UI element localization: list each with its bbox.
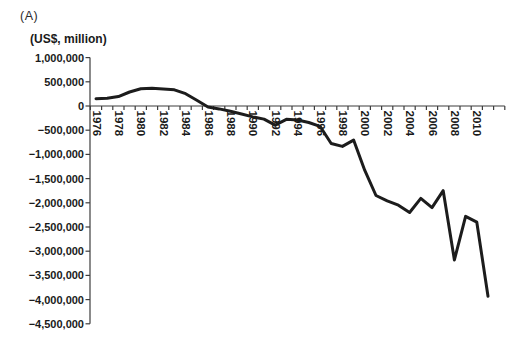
y-tick-label: 1,000,000 [35,52,84,64]
y-tick-label: −4,500,000 [29,318,84,330]
x-tick-label: 2006 [427,111,439,137]
y-tick-label: −500,000 [38,124,84,136]
x-tick-label: 1986 [203,111,215,137]
x-tick-label: 2002 [382,111,394,137]
y-tick-label: −3,000,000 [29,245,84,257]
y-tick-label: −2,000,000 [29,197,84,209]
y-tick-label: 500,000 [44,76,84,88]
figure-panel-a: (A) (US$, million) 1,000,000500,0000−500… [0,0,520,355]
y-tick-label: −4,000,000 [29,294,84,306]
x-tick-label: 1988 [225,111,237,137]
y-tick-label: 0 [78,100,84,112]
x-tick-label: 1998 [337,111,349,137]
x-tick-label: 2000 [359,111,371,137]
x-tick-label: 2008 [449,111,461,137]
line-chart: 1,000,000500,0000−500,000−1,000,000−1,50… [0,0,520,355]
x-tick-label: 1990 [247,111,259,137]
x-tick-label: 2010 [471,111,483,137]
x-tick-label: 1984 [180,111,192,137]
x-tick-label: 1982 [158,111,170,137]
y-tick-label: −2,500,000 [29,221,84,233]
x-tick-label: 1978 [113,111,125,137]
x-tick-label: 1994 [292,111,304,137]
y-tick-label: −1,000,000 [29,148,84,160]
y-tick-label: −3,500,000 [29,269,84,281]
x-tick-label: 1976 [91,111,103,137]
x-tick-label: 2004 [404,111,416,137]
y-tick-label: −1,500,000 [29,173,84,185]
x-tick-label: 1980 [135,111,147,137]
